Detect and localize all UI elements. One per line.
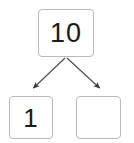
number-bond-diagram: 10 1: [0, 0, 134, 143]
right-part-box[interactable]: [76, 96, 121, 139]
whole-number-box[interactable]: 10: [38, 9, 94, 57]
arrow-to-left-part: [34, 58, 66, 88]
left-part-box[interactable]: 1: [9, 96, 53, 139]
whole-number-value: 10: [50, 20, 82, 47]
arrow-to-right-part: [67, 58, 100, 88]
left-part-value: 1: [23, 105, 38, 131]
